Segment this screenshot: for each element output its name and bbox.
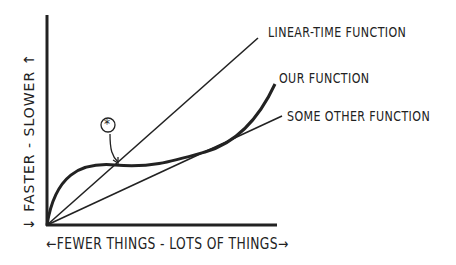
other-function-line <box>47 116 282 225</box>
linear-time-line <box>47 38 258 225</box>
annotation-asterisk: * <box>104 117 111 131</box>
label-our-function: OUR FUNCTION <box>279 70 369 86</box>
x-axis-label: ←FEWER THINGS - LOTS OF THINGS→ <box>46 235 289 253</box>
label-linear-time: LINEAR-TIME FUNCTION <box>268 24 406 40</box>
our-function-curve <box>47 84 275 225</box>
label-other-function: SOME OTHER FUNCTION <box>287 108 430 124</box>
y-axis-label-text: ↓ FASTER - SLOWER ↑ <box>21 53 37 230</box>
y-axis-label: ↓ FASTER - SLOWER ↑ <box>21 53 37 230</box>
annotation-arrow <box>110 134 118 162</box>
